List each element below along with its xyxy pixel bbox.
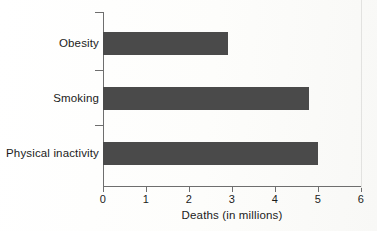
x-axis-tick-label-2: 2 bbox=[174, 193, 204, 205]
x-axis-tick-label-4: 4 bbox=[260, 193, 290, 205]
x-axis-tick-3 bbox=[232, 187, 233, 192]
bar-obesity bbox=[103, 32, 228, 55]
x-axis-tick-label-1: 1 bbox=[131, 193, 161, 205]
x-axis-tick-4 bbox=[275, 187, 276, 192]
bar-chart-figure: Obesity Smoking Physical inactivity 0 1 … bbox=[0, 0, 377, 231]
category-label-obesity: Obesity bbox=[59, 37, 99, 49]
x-axis-tick-2 bbox=[189, 187, 190, 192]
x-axis-tick-label-3: 3 bbox=[217, 193, 247, 205]
y-axis-tick-top bbox=[95, 12, 103, 13]
x-axis-tick-1 bbox=[146, 187, 147, 192]
x-axis-tick-label-0: 0 bbox=[88, 193, 118, 205]
x-axis-title: Deaths (in millions) bbox=[103, 209, 361, 221]
category-label-smoking: Smoking bbox=[53, 92, 99, 104]
y-axis-tick-obesity-smoking bbox=[95, 70, 103, 71]
bar-physical-inactivity bbox=[103, 142, 318, 165]
x-axis-tick-0 bbox=[103, 187, 104, 192]
x-axis-tick-6 bbox=[361, 187, 362, 192]
x-axis-tick-label-6: 6 bbox=[346, 193, 376, 205]
x-axis-tick-label-5: 5 bbox=[303, 193, 333, 205]
y-axis-tick-smoking-inactivity bbox=[95, 125, 103, 126]
bar-smoking bbox=[103, 87, 309, 110]
scan-artifact-line bbox=[361, 0, 362, 188]
category-label-physical-inactivity: Physical inactivity bbox=[6, 147, 99, 159]
x-axis-tick-5 bbox=[318, 187, 319, 192]
